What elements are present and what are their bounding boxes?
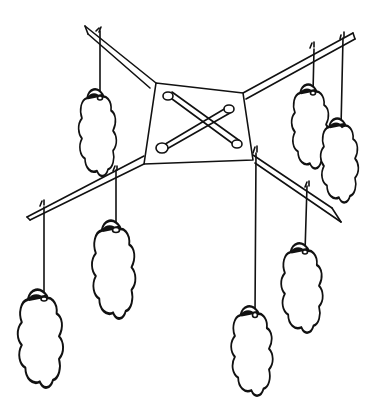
leaf-5: [18, 207, 63, 388]
leaf-7: [281, 186, 323, 333]
leaf-4: [92, 170, 135, 319]
mobile-drawing: [0, 0, 379, 397]
stick-left-upper: [85, 26, 156, 88]
mobile-illustration: hanging mobile with crossed sticks and c…: [0, 0, 379, 397]
stick-right-upper: [243, 32, 355, 99]
leaf-6: [231, 153, 273, 396]
center-board: [144, 83, 253, 164]
